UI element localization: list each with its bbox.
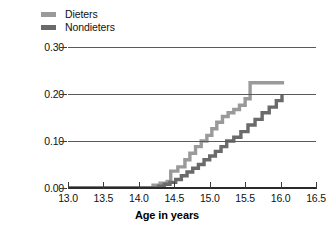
y-tick-0.10: [60, 141, 67, 142]
series-line-dieters: [68, 83, 284, 188]
legend-label-dieters: Dieters: [65, 9, 98, 20]
x-tick-label-14.0: 14.0: [129, 192, 149, 204]
y-tick-0.30: [60, 47, 67, 48]
figure-cumulative-hazard-chart: Dieters Nondieters Cumulative hazard for…: [0, 0, 334, 234]
series-lines: [68, 47, 316, 188]
x-tick-label-16.0: 16.0: [271, 192, 291, 204]
x-tick-14.0: [139, 182, 140, 189]
x-tick-15.0: [210, 182, 211, 189]
x-tick-13.0: [68, 182, 69, 189]
x-tick-15.5: [245, 182, 246, 189]
x-axis-ticks: [68, 182, 316, 190]
x-axis-title: Age in years: [0, 209, 334, 221]
legend-swatch-icon-nondieters: [41, 25, 56, 30]
x-tick-16.0: [281, 182, 282, 189]
gridline-y-0.30: [68, 47, 316, 48]
gridline-y-0.10: [68, 141, 316, 142]
x-axis-tick-labels: 13.013.514.014.515.015.516.016.5: [0, 192, 334, 206]
x-tick-label-16.5: 16.5: [306, 192, 326, 204]
x-tick-label-14.5: 14.5: [164, 192, 184, 204]
y-tick-0.20: [60, 94, 67, 95]
chart-legend: Dieters Nondieters: [41, 9, 115, 35]
legend-label-nondieters: Nondieters: [65, 22, 115, 33]
x-tick-14.5: [174, 182, 175, 189]
y-axis-tick-labels: 0.000.100.200.30: [0, 47, 64, 188]
legend-swatch-icon-dieters: [41, 12, 56, 17]
gridline-y-0.20: [68, 94, 316, 95]
legend-item-dieters: Dieters: [41, 9, 115, 20]
x-tick-label-15.5: 15.5: [235, 192, 255, 204]
x-tick-label-13.5: 13.5: [94, 192, 114, 204]
y-tick-0.00: [60, 188, 67, 189]
x-tick-label-13.0: 13.0: [58, 192, 78, 204]
x-tick-16.5: [316, 182, 317, 189]
x-tick-13.5: [103, 182, 104, 189]
plot-area: [68, 47, 316, 188]
legend-item-nondieters: Nondieters: [41, 22, 115, 33]
x-tick-label-15.0: 15.0: [200, 192, 220, 204]
